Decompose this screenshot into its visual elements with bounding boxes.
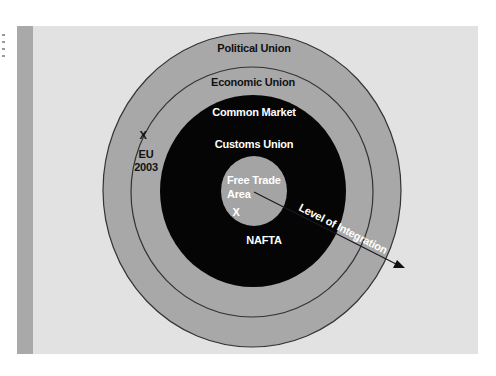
label-eu-year: 2003	[134, 161, 158, 173]
label-economic-union: Economic Union	[211, 76, 295, 88]
label-eu: EU	[139, 148, 154, 160]
label-free-trade-area-line1: Free Trade	[227, 174, 281, 186]
label-customs-union: Customs Union	[215, 138, 294, 150]
integration-levels-diagram: Political Union Economic Union Common Ma…	[0, 0, 496, 376]
label-political-union: Political Union	[217, 42, 291, 54]
nafta-marker-x: X	[232, 206, 240, 218]
label-nafta: NAFTA	[246, 234, 282, 246]
label-free-trade-area-line2: Area	[227, 188, 252, 200]
eu-marker-x: X	[139, 129, 147, 141]
label-common-market: Common Market	[212, 106, 296, 118]
